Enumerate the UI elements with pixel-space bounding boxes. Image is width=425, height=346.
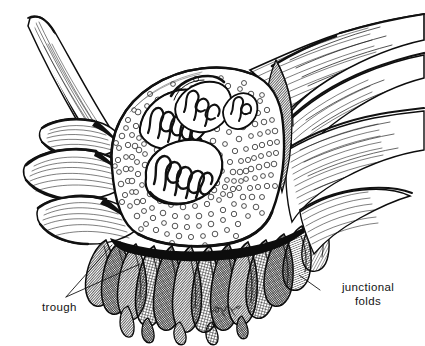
junctional-folds-label-line1: junctional (341, 281, 394, 293)
illustration-figure: trough junctional folds (0, 0, 425, 346)
neuromuscular-junction-drawing: trough junctional folds (0, 0, 425, 346)
junctional-folds-label-line2: folds (355, 295, 381, 307)
trough-label: trough (42, 301, 77, 313)
